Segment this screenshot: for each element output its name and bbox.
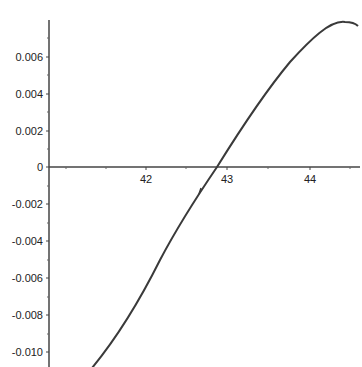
x-tick-label: 42 (140, 173, 152, 185)
y-tick-label: -0.008 (12, 309, 43, 321)
y-tick-label: 0 (37, 161, 43, 173)
data-curve (92, 22, 358, 367)
y-tick-labels: 0.006 0.004 0.002 0 -0.002 -0.004 -0.006… (12, 51, 43, 358)
x-tick-labels: 42 43 44 (140, 173, 316, 185)
y-tick-label: -0.002 (12, 198, 43, 210)
y-tick-label: -0.006 (12, 272, 43, 284)
y-tick-label: 0.004 (15, 88, 43, 100)
y-tick-label: -0.010 (12, 346, 43, 358)
y-tick-label: 0.002 (15, 125, 43, 137)
y-tick-label: 0.006 (15, 51, 43, 63)
y-tick-label: -0.004 (12, 235, 43, 247)
x-tick-label: 44 (304, 173, 316, 185)
x-tick-label: 43 (221, 173, 233, 185)
line-chart: 0.006 0.004 0.002 0 -0.002 -0.004 -0.006… (0, 0, 362, 367)
